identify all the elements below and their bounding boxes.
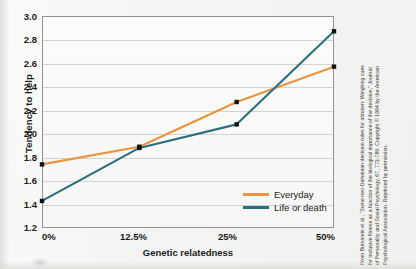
y-tick-label: 2.0 <box>0 128 37 139</box>
credit-line: From Burnstein et al., “Some neo-Darwini… <box>359 3 367 265</box>
legend-label: Everyday <box>274 189 314 200</box>
figure-container: Tendency to help 3.0 2.8 2.6 2.4 2.2 2.0… <box>0 0 416 269</box>
legend-swatch-icon <box>243 193 269 196</box>
x-tick-label: 12.5% <box>120 231 147 242</box>
source-credit: From Burnstein et al., “Some neo-Darwini… <box>336 0 416 269</box>
data-point <box>234 122 238 126</box>
y-tick-label: 1.6 <box>0 175 37 186</box>
y-tick-label: 2.6 <box>0 58 37 69</box>
credit-line: Psychological Association. Reprinted by … <box>382 3 390 265</box>
x-tick-label: 0% <box>42 231 56 242</box>
data-point <box>40 162 44 166</box>
line-everyday <box>42 67 334 165</box>
legend-item-everyday: Everyday <box>243 188 327 201</box>
legend-item-life-or-death: Life or death <box>243 201 327 214</box>
y-tick-label: 2.4 <box>0 81 37 92</box>
y-tick-label: 1.4 <box>0 199 37 210</box>
data-point <box>234 100 238 104</box>
y-tick-label: 3.0 <box>0 11 37 22</box>
legend-label: Life or death <box>274 202 327 213</box>
y-tick-label: 2.2 <box>0 105 37 116</box>
data-point <box>40 199 44 203</box>
x-axis-title: Genetic relatedness <box>42 247 334 258</box>
x-tick-label: 25% <box>218 231 237 242</box>
x-tick-label: 50% <box>316 231 335 242</box>
credit-line: of Personality and Social Psychology, 67… <box>374 3 382 265</box>
y-tick-label: 2.8 <box>0 34 37 45</box>
markers-everyday <box>40 64 336 166</box>
legend: Everyday Life or death <box>243 188 327 214</box>
y-tick-label: 1.8 <box>0 152 37 163</box>
data-point <box>137 146 141 150</box>
paper-smudge <box>30 258 50 267</box>
line-life-or-death <box>42 31 334 201</box>
legend-swatch-icon <box>243 206 269 209</box>
y-tick-label: 1.2 <box>0 222 37 233</box>
credit-line: for inclusive fitness as a function of t… <box>367 3 375 265</box>
